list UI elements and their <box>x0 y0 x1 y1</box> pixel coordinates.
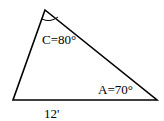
triangle-diagram: C=80° A=70° 12' <box>0 0 164 121</box>
side-length-label: 12' <box>44 106 59 121</box>
angle-a-label: A=70° <box>98 82 133 97</box>
triangle <box>13 10 157 100</box>
angle-c-label: C=80° <box>42 32 76 47</box>
